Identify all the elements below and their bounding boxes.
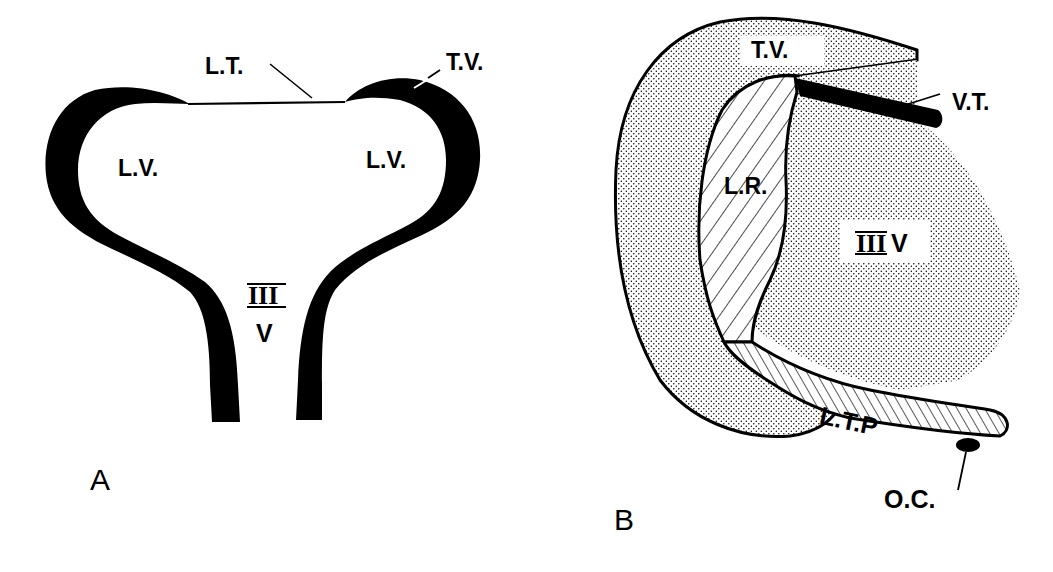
- label-tv-a: T.V.: [446, 49, 484, 75]
- anatomical-figure: L.T. T.V. L.V. L.V. III V A T.V. V.T. L.…: [0, 0, 1053, 572]
- panel-label-b: B: [614, 503, 634, 536]
- panel-a: L.T. T.V. L.V. L.V. III V A: [45, 49, 483, 496]
- left-ventricle-wall: [45, 87, 240, 422]
- label-lv-right: L.V.: [366, 147, 406, 173]
- label-lv-left: L.V.: [118, 155, 158, 181]
- label-vt: V.T.: [952, 89, 990, 115]
- panel-label-a: A: [90, 463, 110, 496]
- label-oc: O.C.: [884, 485, 935, 513]
- label-tv-b: T.V.: [751, 37, 789, 63]
- oc-pointer: [958, 452, 966, 490]
- label-lt: L.T.: [205, 53, 243, 79]
- lt-pointer: [270, 64, 312, 98]
- lamina-terminalis-line: [188, 102, 345, 104]
- label-v-b: V: [891, 229, 908, 257]
- optic-chiasm: [956, 438, 980, 452]
- label-v-a: V: [256, 319, 273, 347]
- label-iii-a: III: [248, 281, 278, 310]
- label-lr: L.R.: [724, 173, 767, 199]
- right-ventricle-wall: [296, 78, 480, 420]
- panel-b: T.V. V.T. L.R. III V L.T.P O.C. B: [614, 18, 1020, 536]
